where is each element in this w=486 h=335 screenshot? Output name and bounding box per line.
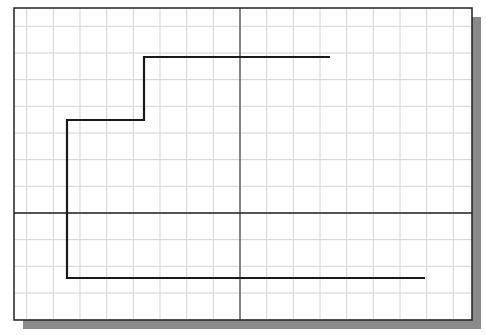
drawing-frame — [14, 8, 472, 320]
drawing-canvas[interactable] — [0, 0, 486, 335]
drawing-viewport[interactable] — [0, 0, 486, 335]
